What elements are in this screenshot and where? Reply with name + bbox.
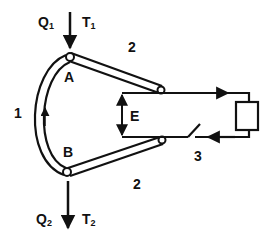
junction-b [63, 168, 71, 176]
conductor-1-label: 1 [14, 105, 22, 121]
thermocouple-diagram: Q1 T1 A B E 1 2 2 3 [0, 0, 278, 244]
outlet-temp-label: T2 [82, 211, 96, 228]
junction-b-label: B [63, 144, 73, 160]
emf-label: E [130, 108, 139, 124]
outlet-heat-label: Q2 [36, 211, 52, 228]
conductor-2-top-label: 2 [128, 39, 136, 55]
inlet-heat-label: Q1 [38, 14, 54, 31]
conductor-2-lower-rod [68, 137, 163, 176]
conductor-2-upper-rod [69, 53, 162, 93]
load-box [236, 102, 258, 130]
switch [188, 124, 200, 137]
circuit-3-label: 3 [194, 148, 202, 164]
conductor-2-bottom-label: 2 [133, 176, 141, 192]
external-circuit [122, 93, 258, 137]
junction-a-label: A [64, 69, 74, 85]
junction-a [66, 53, 74, 61]
inlet-temp-label: T1 [82, 14, 96, 31]
